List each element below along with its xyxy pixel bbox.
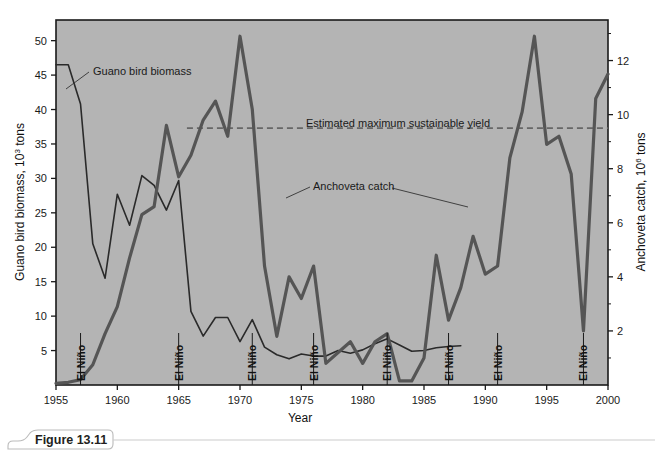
y2-tick-label: 6 xyxy=(617,217,623,229)
el-nino-label: El Niño xyxy=(308,345,320,381)
y-axis-left-title: Guano bird biomass, 103 tons xyxy=(13,123,27,281)
y-right-title-prefix: Anchoveta catch, 10 xyxy=(634,163,648,272)
el-nino-label: El Niño xyxy=(75,345,87,381)
y2-tick-label: 10 xyxy=(617,109,629,121)
x-tick-label: 1980 xyxy=(350,394,374,406)
x-tick-label: 1975 xyxy=(289,394,313,406)
el-nino-label: El Niño xyxy=(443,345,455,381)
y-tick-label: 10 xyxy=(35,310,47,322)
y-tick-label: 25 xyxy=(35,207,47,219)
y-axis-left-ticks: 5101520253035404550 xyxy=(35,35,56,357)
el-nino-label: El Niño xyxy=(381,345,393,381)
y-axis-right-ticks: 24681012 xyxy=(608,34,629,358)
y-tick-label: 40 xyxy=(35,104,47,116)
el-nino-label: El Niño xyxy=(577,345,589,381)
y2-tick-label: 2 xyxy=(617,325,623,337)
y-left-title-suffix: tons xyxy=(13,123,27,149)
x-tick-label: 1960 xyxy=(105,394,129,406)
figure-caption: Figure 13.11 xyxy=(8,430,655,449)
y-right-title-suffix: tons xyxy=(634,132,648,158)
x-tick-label: 1990 xyxy=(473,394,497,406)
chart-canvas: 1955196019651970197519801985199019952000… xyxy=(0,0,661,453)
msy-annotation: Estimated maximum sustainable yield xyxy=(306,117,490,129)
caption-label: Figure 13.11 xyxy=(35,433,107,447)
x-tick-label: 1970 xyxy=(228,394,252,406)
y-tick-label: 45 xyxy=(35,69,47,81)
x-tick-label: 1985 xyxy=(412,394,436,406)
y-tick-label: 15 xyxy=(35,276,47,288)
x-axis-ticks: 1955196019651970197519801985199019952000 xyxy=(44,385,620,406)
x-tick-label: 2000 xyxy=(596,394,620,406)
x-axis-title: Year xyxy=(288,411,312,425)
el-nino-label: El Niño xyxy=(492,345,504,381)
guano-bird-biomass-annotation: Guano bird biomass xyxy=(93,65,192,77)
y-tick-label: 20 xyxy=(35,241,47,253)
x-tick-label: 1965 xyxy=(166,394,190,406)
figure-root: 1955196019651970197519801985199019952000… xyxy=(0,0,661,453)
y2-tick-label: 4 xyxy=(617,271,623,283)
el-nino-label: El Niño xyxy=(246,345,258,381)
el-nino-label: El Niño xyxy=(173,345,185,381)
y-tick-label: 50 xyxy=(35,35,47,47)
y2-tick-label: 12 xyxy=(617,55,629,67)
y2-tick-label: 8 xyxy=(617,163,623,175)
y-tick-label: 5 xyxy=(41,345,47,357)
anchoveta-catch-annotation: Anchoveta catch xyxy=(313,180,394,192)
x-tick-label: 1955 xyxy=(44,394,68,406)
y-left-title-prefix: Guano bird biomass, 10 xyxy=(13,153,27,281)
y-tick-label: 35 xyxy=(35,138,47,150)
y-tick-label: 30 xyxy=(35,172,47,184)
y-axis-right-title: Anchoveta catch, 106 tons xyxy=(634,132,648,271)
x-tick-label: 1995 xyxy=(534,394,558,406)
